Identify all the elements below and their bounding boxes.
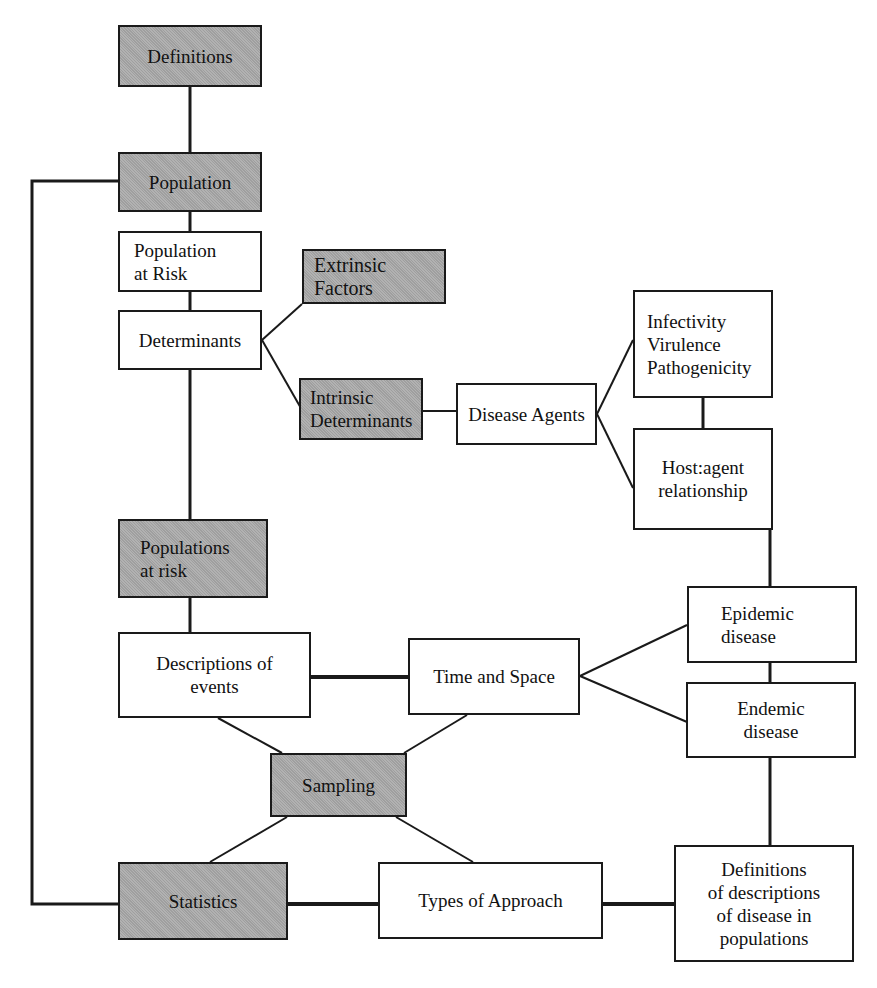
concept-map-diagram: Definitions Population Population at Ris… [0,0,877,988]
node-host-agent-relationship: Host:agent relationship [633,428,773,530]
node-determinants: Determinants [118,310,262,370]
node-infectivity-virulence-pathogenicity: Infectivity Virulence Pathogenicity [633,290,773,398]
node-sampling: Sampling [270,753,407,817]
node-statistics: Statistics [118,862,288,940]
node-time-and-space: Time and Space [408,638,580,715]
node-populations-at-risk: Populations at risk [118,519,268,598]
node-population: Population [118,152,262,212]
node-descriptions-of-events: Descriptions of events [118,632,311,718]
node-disease-agents: Disease Agents [456,383,597,445]
node-intrinsic-determinants: Intrinsic Determinants [299,378,423,440]
node-epidemic-disease: Epidemic disease [687,586,857,663]
node-population-at-risk: Population at Risk [118,231,262,292]
node-extrinsic-factors: Extrinsic Factors [302,249,446,304]
node-types-of-approach: Types of Approach [378,862,603,939]
node-endemic-disease: Endemic disease [686,682,856,758]
node-definitions-of-descriptions: Definitions of descriptions of disease i… [674,845,854,962]
node-definitions: Definitions [118,25,262,87]
